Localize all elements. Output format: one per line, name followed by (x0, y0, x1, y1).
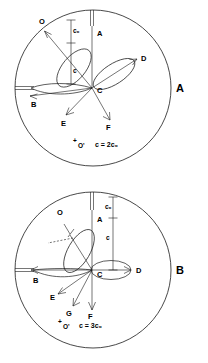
origin-label: O' (63, 323, 70, 330)
ray-b-line (30, 88, 92, 96)
label-e: E (61, 119, 66, 128)
label-o: O (39, 17, 45, 26)
ray-o-cross-arrow (64, 224, 74, 237)
lobe-o (57, 225, 100, 278)
label-a: A (97, 29, 103, 38)
equation-a: c = 2c₀ (95, 141, 118, 148)
origin-marker: + (73, 137, 77, 144)
panel-a-circle (15, 10, 171, 166)
label-c0-scale: c₀ (73, 27, 80, 34)
label-o: O (57, 208, 63, 217)
label-c0-scale: c₀ (105, 203, 112, 210)
panel-b: O A D B E G F C c₀ c + O' c = 3c₀ B (0, 182, 208, 363)
lobe-b (31, 84, 92, 95)
label-d: D (136, 266, 142, 275)
label-c-scale: c (106, 234, 110, 241)
ray-e-line (58, 270, 92, 294)
ray-b-arrowhead (30, 94, 38, 99)
label-a: A (97, 215, 103, 224)
ray-o-dashed-line (48, 238, 73, 243)
label-c-center: C (97, 86, 103, 95)
equation-b: c = 3c₀ (79, 322, 102, 329)
label-d: D (141, 54, 147, 63)
label-c-scale: c (73, 67, 77, 74)
panel-b-letter: B (176, 264, 184, 276)
label-e: E (50, 293, 55, 302)
panel-a: O A D B E F C c₀ c + O' c = 2c₀ A (0, 0, 208, 181)
origin-marker: + (58, 318, 62, 325)
figure-root: O A D B E F C c₀ c + O' c = 2c₀ A (0, 0, 208, 363)
label-b: B (31, 100, 37, 109)
origin-label: O' (78, 142, 85, 149)
label-g: G (66, 309, 72, 318)
label-c-center: C (97, 270, 103, 279)
panel-a-letter: A (176, 82, 184, 94)
label-f: F (88, 312, 93, 321)
ray-o-line (45, 31, 93, 88)
label-b: B (33, 276, 39, 285)
label-f: F (106, 123, 111, 132)
